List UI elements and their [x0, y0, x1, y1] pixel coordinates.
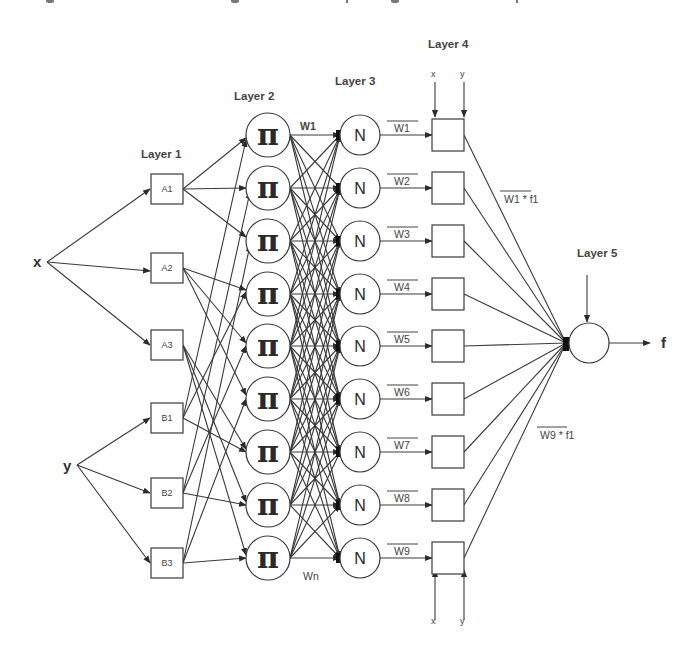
layer2-product-node: π [246, 377, 290, 421]
layer2-wn-label: Wn [303, 570, 319, 582]
anfis-diagram: W1W2W3W4W5W6W7W8W9 A1A2A3B1B2B3 ππππππππ… [0, 0, 695, 652]
layer3-normalize-node: N [340, 432, 380, 472]
layer5-sum-node [569, 323, 609, 363]
pi-symbol: π [257, 223, 279, 258]
layer1-label: Layer 1 [141, 148, 182, 160]
svg-text:B3: B3 [161, 558, 172, 568]
svg-text:N: N [354, 444, 366, 461]
layer3-normalize-node: N [340, 485, 380, 525]
layer4-top-x-label: x [431, 69, 436, 79]
output-f-label: f [661, 334, 667, 351]
pi-symbol: π [257, 487, 279, 522]
layer2-to-layer3-edges [290, 130, 340, 563]
normalized-weight-label: W6 [394, 386, 410, 398]
pi-symbol: π [257, 117, 279, 152]
layer3-label: Layer 3 [335, 75, 375, 87]
layer1-to-layer2-edges [183, 138, 250, 563]
svg-text:W1: W1 [300, 120, 316, 132]
layer4-bottom-x-label: x [431, 616, 436, 626]
svg-text:A2: A2 [161, 263, 172, 273]
layer1-node-b1: B1 [151, 403, 183, 433]
layer4-consequent-node [432, 330, 464, 362]
layer1-node-a3: A3 [151, 330, 183, 360]
layer4-nodes [432, 119, 464, 574]
layer5-junction [563, 337, 569, 351]
layer3-normalize-node: N [340, 538, 380, 578]
layer4-consequent-node [432, 383, 464, 415]
layer4-top-y-label: y [460, 69, 465, 79]
svg-text:N: N [354, 550, 366, 567]
layer2-product-node: π [246, 324, 290, 368]
pi-symbol: π [257, 170, 279, 205]
layer4-consequent-node [432, 172, 464, 204]
layer4-consequent-node [432, 542, 464, 574]
annotation-w9-f1: W9 * f1 [537, 427, 575, 441]
pi-symbol: π [257, 328, 279, 363]
layer3-normalize-node: N [340, 379, 380, 419]
layer1-node-a2: A2 [151, 253, 183, 283]
layer3-normalize-node: N [340, 168, 380, 208]
svg-text:B1: B1 [161, 413, 172, 423]
layer1-node-b2: B2 [151, 478, 183, 508]
svg-text:N: N [354, 127, 366, 144]
layer3-normalize-node: N [340, 221, 380, 261]
svg-text:W1 * f1: W1 * f1 [504, 193, 539, 205]
svg-text:B2: B2 [161, 488, 172, 498]
input-edges [47, 189, 150, 563]
layer3-normalize-node: N [340, 326, 380, 366]
normalized-weight-label: W8 [394, 492, 410, 504]
layer2-product-node: π [246, 536, 290, 580]
layer3-normalize-node: N [340, 115, 380, 155]
layer2-label: Layer 2 [234, 90, 274, 102]
input-y-label: y [63, 457, 72, 474]
layer2-product-node: π [246, 219, 290, 263]
layer2-product-node: π [246, 483, 290, 527]
layer1-node-a1: A1 [151, 174, 183, 204]
svg-text:N: N [354, 497, 366, 514]
normalized-weight-label: W7 [394, 439, 410, 451]
layer3-nodes: NNNNNNNNN [340, 115, 380, 578]
layer3-normalize-node: N [340, 274, 380, 314]
layer2-product-node: π [246, 113, 290, 157]
svg-text:N: N [354, 286, 366, 303]
layer1-node-b3: B3 [151, 548, 183, 578]
layer4-consequent-node [432, 278, 464, 310]
svg-text:N: N [354, 180, 366, 197]
svg-text:N: N [354, 391, 366, 408]
pi-symbol: π [257, 381, 279, 416]
svg-text:A1: A1 [161, 184, 172, 194]
layer2-product-node: π [246, 272, 290, 316]
svg-text:W9 * f1: W9 * f1 [540, 429, 575, 441]
annotation-w1-f1: W1 * f1 [500, 191, 539, 205]
layer2-nodes: πππππππππ [246, 113, 290, 580]
normalized-weight-label: W2 [394, 175, 410, 187]
layer4-consequent-node [432, 436, 464, 468]
layer2-product-node: π [246, 166, 290, 210]
normalized-weight-label: W4 [394, 281, 410, 293]
layer1-nodes: A1A2A3B1B2B3 [151, 174, 183, 578]
layer4-bottom-y-label: y [460, 616, 465, 626]
layer2-product-node: π [246, 430, 290, 474]
cropped-caption-descenders [46, 0, 518, 3]
layer4-label: Layer 4 [428, 38, 469, 50]
normalized-weight-label: W1 [394, 122, 410, 134]
layer2-w1-label: W1 [300, 120, 316, 132]
normalized-weight-label: W5 [394, 333, 410, 345]
svg-text:A3: A3 [161, 340, 172, 350]
layer3-to-layer4-edges: W1W2W3W4W5W6W7W8W9 [380, 121, 432, 558]
layer5-label: Layer 5 [577, 247, 618, 259]
svg-text:N: N [354, 233, 366, 250]
layer4-consequent-node [432, 119, 464, 151]
layer4-consequent-node [432, 225, 464, 257]
svg-text:N: N [354, 338, 366, 355]
input-x-label: x [33, 253, 42, 270]
normalized-weight-label: W9 [394, 545, 410, 557]
pi-symbol: π [257, 276, 279, 311]
layer4-consequent-node [432, 489, 464, 521]
pi-symbol: π [257, 434, 279, 469]
pi-symbol: π [257, 540, 279, 575]
normalized-weight-label: W3 [394, 228, 410, 240]
